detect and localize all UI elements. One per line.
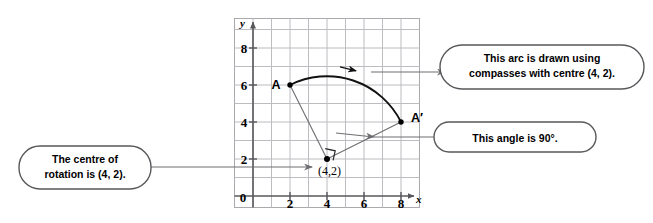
x-tick-2: 2 [287,196,294,211]
rotation-diagram: 0 2 4 6 8 2 4 6 8 y x A A′ (4,2) [0,0,653,223]
callout-arc[interactable]: This arc is drawn using compasses with c… [440,45,644,89]
callout-angle-line1: This angle is 90°. [472,132,557,144]
point-A-prime-label: A′ [411,111,423,125]
callout-angle[interactable]: This angle is 90°. [434,122,596,152]
point-A-label: A [271,78,280,92]
y-tick-6: 6 [241,78,248,93]
callout-centre-line2: rotation is (4, 2). [44,168,125,180]
point-centre-dot [324,156,330,162]
y-tick-8: 8 [241,41,248,56]
x-tick-8: 8 [398,196,405,211]
y-tick-2: 2 [241,152,248,167]
y-tick-4: 4 [241,115,248,130]
y-axis-label: y [238,17,245,29]
centre-coordinate-label: (4,2) [318,164,341,178]
point-A-dot [287,82,292,87]
callout-arc-line1: This arc is drawn using [484,52,601,64]
x-tick-4: 4 [324,196,331,211]
point-A-prime-dot [398,119,403,124]
x-axis-label: x [415,193,422,205]
x-tick-6: 6 [361,196,368,211]
callout-centre-line1: The centre of [52,153,118,165]
callout-centre[interactable]: The centre of rotation is (4, 2). [19,146,151,189]
callout-arc-line2: compasses with centre (4, 2). [469,67,615,79]
x-tick-0: 0 [240,190,247,205]
coordinate-grid [235,19,420,208]
